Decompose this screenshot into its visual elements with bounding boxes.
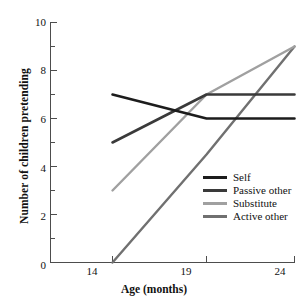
series-line-active-other — [113, 47, 295, 263]
legend-item-substitute: Substitute — [203, 198, 291, 209]
legend-item-passive-other: Passive other — [203, 185, 291, 196]
x-ticks — [113, 256, 295, 263]
line-chart-figure: Number of children pretending Age (month… — [0, 0, 308, 303]
chart-legend: Self Passive other Substitute Active oth… — [203, 172, 291, 222]
legend-label-active-other: Active other — [233, 211, 288, 222]
axis-spines — [50, 22, 295, 263]
legend-swatch-self — [203, 176, 227, 179]
legend-label-self: Self — [233, 172, 251, 183]
legend-swatch-active-other — [203, 215, 227, 218]
legend-label-passive-other: Passive other — [233, 185, 291, 196]
legend-swatch-substitute — [203, 202, 227, 205]
legend-swatch-passive-other — [203, 189, 227, 192]
legend-item-active-other: Active other — [203, 211, 291, 222]
legend-label-substitute: Substitute — [233, 198, 277, 209]
plot-area — [0, 0, 308, 303]
legend-item-self: Self — [203, 172, 291, 183]
